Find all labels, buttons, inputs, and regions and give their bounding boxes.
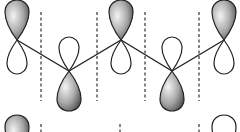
p-orbital-3 (109, 0, 133, 74)
shaded-lobe (212, 0, 236, 40)
shaded-lobe (5, 115, 29, 132)
shaded-lobe (5, 0, 29, 40)
open-lobe (111, 40, 131, 74)
open-lobe (7, 40, 27, 74)
open-lobe (59, 37, 79, 71)
open-lobe (162, 37, 182, 71)
nodal-planes-row2 (41, 124, 199, 132)
shaded-lobe (57, 71, 81, 111)
p-orbital-1 (5, 0, 29, 74)
open-lobe (212, 115, 236, 132)
p-orbital-row2-1 (5, 115, 29, 132)
p-orbital-2 (57, 37, 81, 111)
orbital-diagram (0, 0, 240, 132)
p-orbital-5 (212, 0, 236, 74)
shaded-lobe (109, 0, 133, 40)
p-orbital-4 (160, 37, 184, 111)
open-lobe (214, 40, 234, 74)
p-orbital-row2-5 (212, 115, 236, 132)
shaded-lobe (160, 71, 184, 111)
